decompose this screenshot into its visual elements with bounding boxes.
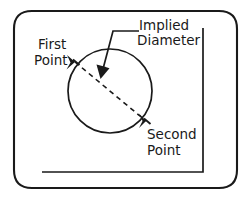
implied-diameter-dashed-line bbox=[75, 62, 146, 121]
second-point-label-line2: Point bbox=[147, 142, 181, 158]
first-point-label-line1: First bbox=[38, 36, 66, 52]
diagram-canvas: First Point Implied Diameter Second Poin… bbox=[0, 0, 250, 198]
leader-arrowhead-icon bbox=[97, 65, 110, 80]
implied-diameter-label-line2: Diameter bbox=[137, 32, 200, 48]
implied-diameter-label-line1: Implied bbox=[139, 17, 189, 33]
first-point-arrowhead-icon bbox=[67, 55, 76, 70]
cad-diagram-figure: First Point Implied Diameter Second Poin… bbox=[0, 0, 250, 198]
first-point-label-line2: Point bbox=[34, 52, 68, 68]
second-point-label-line1: Second bbox=[147, 126, 197, 142]
first-point-marker bbox=[67, 55, 80, 70]
